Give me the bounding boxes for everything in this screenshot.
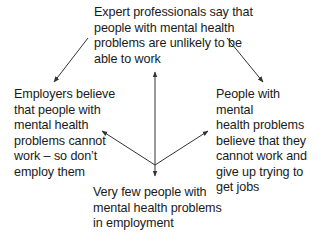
node-few-in-employment: Very few people with mental health probl… bbox=[93, 185, 263, 232]
node-employers-believe: Employers believe that people with menta… bbox=[14, 87, 124, 180]
node-expert-professionals: Expert professionals say that people wit… bbox=[94, 5, 294, 67]
arrow-hub-to-right bbox=[155, 131, 208, 165]
node-people-believe: People with mental health problems belie… bbox=[216, 87, 318, 196]
arrow-top-to-left bbox=[54, 38, 88, 82]
